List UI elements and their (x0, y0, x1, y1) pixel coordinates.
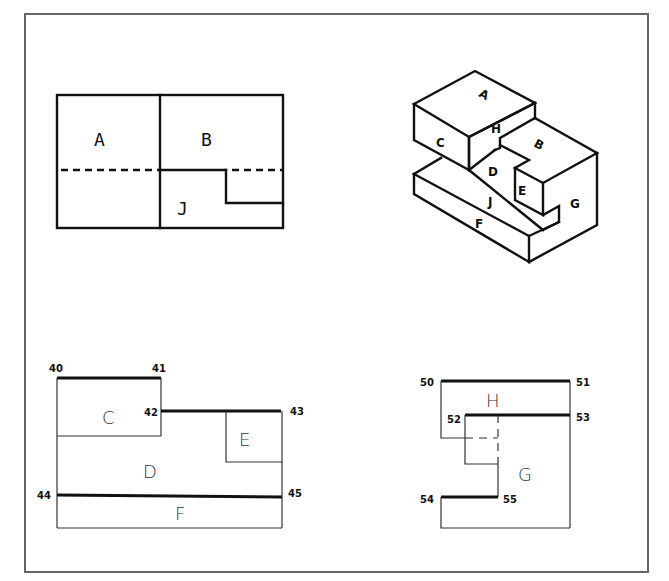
iso-label-a: A (477, 86, 492, 103)
label-j: J (177, 198, 188, 219)
step-outline (465, 415, 498, 464)
isometric-view: A B C D E F G H J (414, 71, 597, 262)
iso-label-g: G (570, 197, 580, 211)
j-notch-edge (226, 170, 283, 203)
iso-label-d: D (488, 165, 498, 179)
block-g-face (529, 153, 597, 262)
point-54: 54 (420, 494, 434, 505)
point-51: 51 (576, 377, 590, 388)
iso-label-b: B (532, 136, 547, 153)
point-42: 42 (144, 407, 158, 418)
point-41: 41 (152, 363, 166, 374)
h-left-outline (441, 381, 465, 438)
point-44: 44 (37, 490, 51, 501)
drawing-frame (25, 14, 648, 572)
point-45: 45 (288, 488, 302, 499)
side-label-g: G (518, 464, 532, 485)
edge-44-45 (57, 495, 282, 497)
point-50: 50 (420, 377, 434, 388)
iso-label-h: H (491, 122, 501, 136)
top-view: A B J (57, 95, 283, 228)
side-view: H G 50 51 52 53 54 55 (420, 377, 590, 528)
front-view: C D E F 40 41 42 43 44 45 (37, 363, 304, 528)
e-outline (226, 411, 282, 462)
iso-label-f: F (475, 217, 483, 231)
iso-label-c: C (436, 136, 445, 150)
point-53: 53 (576, 412, 590, 423)
front-label-f: F (175, 503, 185, 524)
iso-label-j: J (487, 195, 492, 209)
front-label-c: C (102, 407, 115, 428)
point-52: 52 (447, 414, 461, 425)
label-a: A (94, 129, 105, 150)
label-b: B (201, 129, 212, 150)
front-label-d: D (143, 461, 157, 482)
iso-label-e: E (518, 184, 526, 198)
point-43: 43 (290, 406, 304, 417)
front-label-e: E (239, 429, 250, 450)
point-40: 40 (49, 363, 63, 374)
block-f-face (414, 174, 529, 262)
side-label-h: H (486, 390, 500, 411)
point-55: 55 (503, 494, 517, 505)
top-view-outline (57, 95, 283, 228)
drawing-canvas: A B J A B C D E F G H J (0, 0, 669, 581)
